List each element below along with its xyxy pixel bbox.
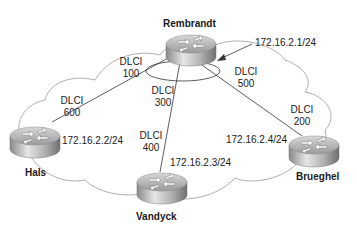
ip-pointer-arrowhead bbox=[217, 54, 226, 61]
router-name-hals: Hals bbox=[25, 167, 46, 179]
ip-brueghel: 172.16.2.4/24 bbox=[226, 134, 287, 146]
router-name-rembrandt: Rembrandt bbox=[163, 18, 216, 30]
dlci-value: 300 bbox=[150, 97, 176, 109]
dlci-text: DLCI bbox=[138, 130, 164, 142]
dlci-text: DLCI bbox=[150, 85, 176, 97]
ip-rembrandt: 172.16.2.1/24 bbox=[255, 37, 316, 49]
dlci-value: 500 bbox=[233, 78, 259, 90]
router-vandyck-icon[interactable] bbox=[137, 172, 187, 204]
router-name-brueghel: Brueghel bbox=[296, 171, 339, 183]
router-rembrandt-icon[interactable] bbox=[166, 34, 216, 66]
dlci-text: DLCI bbox=[118, 56, 144, 68]
pvc-rembrandt-vandyck bbox=[160, 62, 180, 172]
ip-hals: 172.16.2.2/24 bbox=[62, 135, 123, 147]
dlci-value: 100 bbox=[118, 68, 144, 80]
dlci-value: 200 bbox=[289, 116, 315, 128]
router-brueghel-icon[interactable] bbox=[289, 135, 339, 167]
router-hals-icon[interactable] bbox=[10, 126, 60, 158]
dlci-value: 400 bbox=[138, 142, 164, 154]
dlci-text: DLCI bbox=[59, 95, 85, 107]
dlci-200-label: DLCI 200 bbox=[289, 104, 315, 128]
dlci-300-label: DLCI 300 bbox=[150, 85, 176, 109]
dlci-value: 600 bbox=[59, 107, 85, 119]
dlci-500-label: DLCI 500 bbox=[233, 66, 259, 90]
dlci-text: DLCI bbox=[233, 66, 259, 78]
router-name-vandyck: Vandyck bbox=[136, 211, 177, 223]
dlci-600-label: DLCI 600 bbox=[59, 95, 85, 119]
dlci-text: DLCI bbox=[289, 104, 315, 116]
ip-vandyck: 172.16.2.3/24 bbox=[170, 157, 231, 169]
dlci-400-label: DLCI 400 bbox=[138, 130, 164, 154]
ip-pointer-line bbox=[222, 44, 252, 58]
dlci-100-label: DLCI 100 bbox=[118, 56, 144, 80]
